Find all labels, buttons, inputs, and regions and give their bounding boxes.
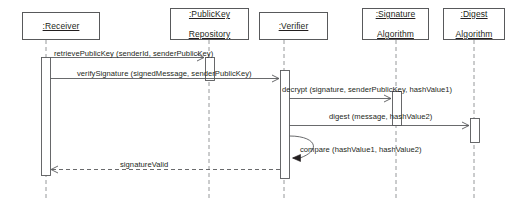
message-label-retrievePublicKey: retrievePublicKey (senderId, senderPubli…	[54, 49, 213, 58]
message-label-compare: compare (hashValue1, hashValue2)	[300, 145, 422, 154]
message-label-digest: digest (message, hashValue2)	[329, 112, 432, 121]
lifeline-head-receiver[interactable]: :Receiver	[22, 12, 100, 40]
lifeline-label-receiver: :Receiver	[43, 11, 80, 41]
lifeline-label-digest-algorithm: :Digest Algorithm	[456, 0, 493, 49]
lifeline-head-verifier[interactable]: :Verifier	[259, 12, 328, 40]
lifeline-head-signature-algorithm[interactable]: :Signature Algorithm	[362, 8, 429, 40]
lifeline-head-publickey-repository[interactable]: :PublicKey Repository	[170, 8, 249, 40]
lifeline-label-publickey-repository: :PublicKey Repository	[189, 0, 231, 49]
activation-bar-receiver	[42, 58, 51, 176]
lifeline-label-signature-algorithm: :Signature Algorithm	[376, 0, 416, 49]
message-label-verifySignature: verifySignature (signedMessage, senderPu…	[77, 69, 252, 78]
lifeline-label-verifier: :Verifier	[279, 11, 309, 41]
activation-bar-digest-algorithm	[471, 119, 480, 143]
sequence-diagram-canvas: :Receiver :PublicKey Repository :Verifie…	[0, 0, 514, 211]
message-label-decrypt: decrypt (signature, senderPublicKey, has…	[282, 85, 452, 94]
lifeline-head-digest-algorithm[interactable]: :Digest Algorithm	[443, 8, 505, 40]
message-label-signatureValid: signatureValid	[120, 160, 168, 169]
